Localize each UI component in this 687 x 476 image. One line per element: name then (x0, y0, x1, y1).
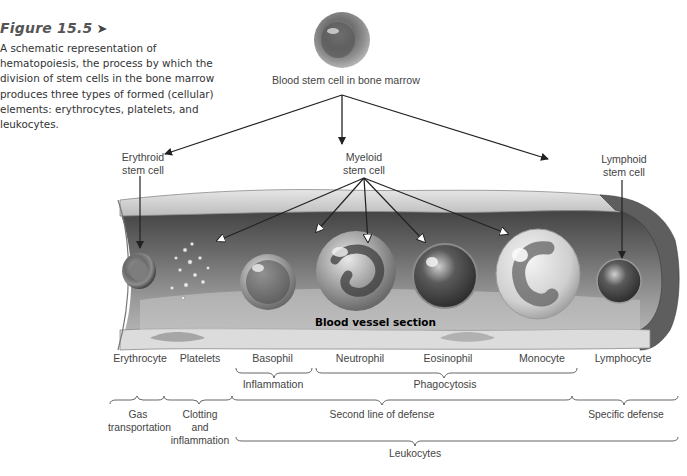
function-label-inflammation: Inflammation (238, 378, 308, 391)
cell-label-erythrocyte: Erythrocyte (110, 352, 170, 365)
lymphocyte-icon (597, 259, 641, 303)
label-line: Gas (108, 408, 168, 421)
lymphoid-stem-cell-label: Lymphoid stem cell (594, 153, 654, 179)
myeloid-stem-cell-label: Myeloid stem cell (334, 151, 394, 177)
cell-label-lymphocyte: Lymphocyte (588, 352, 658, 365)
cell-label-eosinophil: Eosinophil (418, 352, 478, 365)
label-line: Myeloid (334, 151, 394, 164)
label-line: transportation (108, 421, 168, 434)
label-line: stem cell (113, 164, 173, 177)
eosinophil-icon (413, 244, 477, 308)
monocyte-icon (496, 229, 580, 319)
hematopoiesis-illustration: Blood vessel section (0, 0, 687, 476)
label-line: Lymphoid (594, 153, 654, 166)
function-label-gas-transportation: Gas transportation (108, 408, 168, 434)
cell-label-monocyte: Monocyte (512, 352, 572, 365)
erythroid-stem-cell-label: Erythroid stem cell (113, 151, 173, 177)
root-stem-cell-label: Blood stem cell in bone marrow (272, 74, 412, 87)
function-label-second-line-defense: Second line of defense (320, 408, 444, 421)
blood-stem-cell-icon (314, 12, 370, 68)
label-line: and (165, 421, 235, 434)
label-line: inflammation (165, 434, 235, 447)
function-label-specific-defense: Specific defense (576, 408, 676, 421)
label-line: stem cell (334, 164, 394, 177)
differentiation-arrows (165, 95, 548, 159)
function-label-clotting-inflammation: Clotting and inflammation (165, 408, 235, 447)
label-line: stem cell (594, 166, 654, 179)
vessel-section-label: Blood vessel section (315, 316, 436, 328)
cell-label-basophil: Basophil (245, 352, 300, 365)
neutrophil-icon (316, 231, 396, 311)
cell-label-neutrophil: Neutrophil (330, 352, 390, 365)
erythrocyte-icon (122, 253, 156, 289)
cell-label-platelets: Platelets (175, 352, 225, 365)
basophil-icon (240, 254, 296, 310)
function-label-phagocytosis: Phagocytosis (408, 378, 482, 391)
group-label-leukocytes: Leukocytes (385, 447, 445, 460)
label-line: Clotting (165, 408, 235, 421)
label-line: Erythroid (113, 151, 173, 164)
